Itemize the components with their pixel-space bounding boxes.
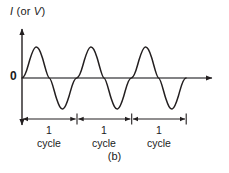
cycle-label-3-number: 1 bbox=[126, 124, 192, 137]
y-axis-label-close-paren: ) bbox=[41, 5, 45, 17]
figure-caption: (b) bbox=[0, 150, 229, 162]
y-axis-label-connector: (or bbox=[13, 5, 34, 17]
waveform-figure: I (or V) 0 1 cycle 1 cycle 1 cycle (b) bbox=[0, 0, 229, 173]
origin-label: 0 bbox=[10, 69, 17, 83]
cycle-label-3-unit: cycle bbox=[126, 137, 192, 150]
y-axis-label: I (or V) bbox=[10, 5, 45, 17]
cycle-label-3: 1 cycle bbox=[126, 124, 192, 149]
